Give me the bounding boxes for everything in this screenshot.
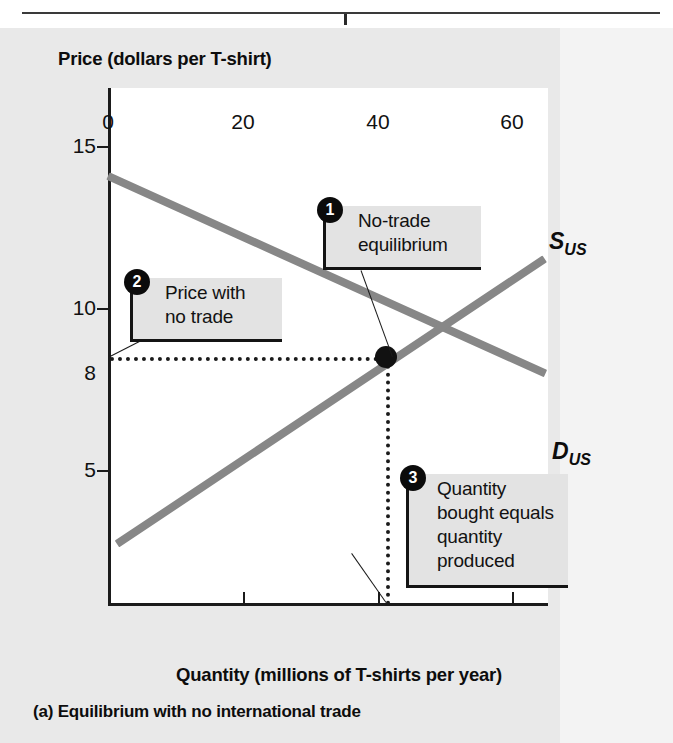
quantity-guide-dotted-line [386, 357, 390, 605]
x-tick-20 [243, 592, 245, 606]
supply-curve-label: SUS [549, 228, 587, 259]
x-ticklabel-20: 20 [231, 110, 254, 134]
plot-area: 15 10 8 5 0 20 40 60 SUS DUS No-tra [108, 88, 548, 606]
y-ticklabel-5: 5 [84, 458, 96, 482]
y-tick-5 [97, 470, 111, 472]
x-ticklabel-60: 60 [500, 110, 523, 134]
figure-page: Price (dollars per T-shirt) 15 10 8 5 0 … [0, 0, 673, 743]
callout-1-box: No-trade equilibrium [323, 206, 481, 270]
callout-2-text: Price with no trade [165, 281, 272, 329]
y-ticklabel-8: 8 [84, 361, 96, 385]
supply-curve-letter: S [549, 228, 564, 254]
page-top-rule [22, 12, 660, 14]
x-axis-title: Quantity (millions of T-shirts per year) [176, 664, 502, 686]
supply-curve-subscript: US [564, 241, 586, 258]
y-tick-10 [97, 308, 111, 310]
demand-curve-subscript: US [569, 451, 591, 468]
callout-3-badge: 3 [400, 465, 426, 491]
demand-curve-letter: D [552, 438, 569, 464]
callout-1-text: No-trade equilibrium [358, 209, 471, 257]
price-guide-dotted-line [110, 357, 386, 361]
y-ticklabel-15: 15 [73, 134, 96, 158]
figure-background-panel-right [560, 28, 673, 743]
x-axis-line [108, 603, 548, 606]
y-axis-line [108, 88, 111, 606]
page-top-rule-tick [344, 14, 347, 25]
figure-caption: (a) Equilibrium with no international tr… [33, 702, 361, 722]
y-axis-title: Price (dollars per T-shirt) [58, 48, 272, 70]
y-tick-15 [97, 146, 111, 148]
callout-3-box: Quantity bought equals quantity produced [406, 474, 568, 588]
x-ticklabel-0: 0 [102, 110, 114, 134]
demand-curve-label: DUS [552, 438, 591, 469]
y-ticklabel-10: 10 [73, 296, 96, 320]
callout-2-box: Price with no trade [130, 278, 282, 342]
equilibrium-point [375, 346, 397, 368]
x-ticklabel-40: 40 [366, 110, 389, 134]
callout-2-badge: 2 [124, 269, 150, 295]
callout-1-badge: 1 [317, 197, 343, 223]
callout-3-text: Quantity bought equals quantity produced [437, 477, 558, 573]
x-tick-60 [512, 592, 514, 606]
